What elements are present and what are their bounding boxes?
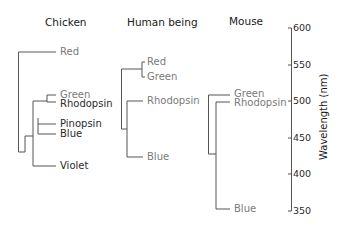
chicken-leaf-red: Red: [60, 47, 79, 57]
chicken-leaf-rhodopsin: Rhodopsin: [60, 99, 113, 109]
human-leaf-green: Green: [147, 72, 177, 82]
human-leaf-rhodopsin: Rhodopsin: [147, 96, 200, 106]
chicken-leaf-blue: Blue: [60, 129, 82, 139]
mouse-leaf-rhodopsin: Rhodopsin: [234, 98, 287, 108]
human-title: Human being: [127, 16, 198, 28]
chicken-title: Chicken: [45, 16, 87, 28]
axis-tick-550: 550: [293, 60, 311, 70]
phylogeny-lines: [0, 0, 338, 229]
mouse-title: Mouse: [229, 15, 263, 27]
axis-tick-500: 500: [293, 96, 311, 106]
axis-label: Wavelength (nm): [318, 74, 329, 160]
axis-tick-600: 600: [293, 23, 311, 33]
human-leaf-red: Red: [147, 57, 166, 67]
chicken-leaf-violet: Violet: [60, 161, 88, 171]
mouse-leaf-blue: Blue: [234, 204, 256, 214]
axis-tick-400: 400: [293, 169, 311, 179]
axis-tick-450: 450: [293, 133, 311, 143]
human-leaf-blue: Blue: [147, 152, 169, 162]
axis-tick-350: 350: [293, 206, 311, 216]
